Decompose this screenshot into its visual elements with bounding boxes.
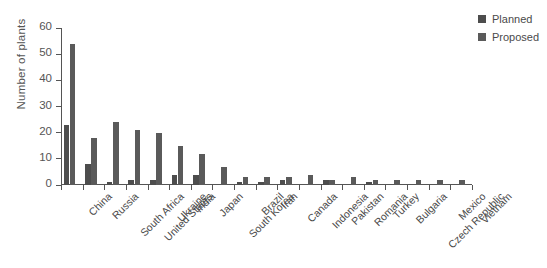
bar (172, 175, 178, 185)
bar-group (431, 28, 443, 185)
legend-label: Proposed (492, 31, 539, 43)
bar (64, 125, 70, 185)
bar-group (388, 28, 400, 185)
bar (323, 180, 329, 185)
bar (221, 167, 227, 185)
bar (107, 182, 113, 185)
bar-group (85, 28, 97, 185)
y-tick-label: 10 (39, 151, 52, 163)
bar (366, 182, 372, 185)
bar (237, 182, 243, 185)
bar (85, 164, 91, 185)
bar (329, 180, 335, 185)
bar (264, 177, 270, 185)
y-axis-title: Number of plants (15, 0, 27, 129)
bar (351, 177, 357, 185)
y-tick-label: 40 (39, 72, 52, 84)
chart-legend: PlannedProposed (478, 11, 539, 47)
bar-group (323, 28, 335, 185)
bar (128, 180, 134, 185)
bar (394, 180, 400, 185)
bar-group (280, 28, 292, 185)
y-tick-label: 20 (39, 125, 52, 137)
bar-group (128, 28, 140, 185)
y-tick-label: 30 (39, 99, 52, 111)
bar-group (193, 28, 205, 185)
bar-group (237, 28, 249, 185)
x-axis-label: Japan (216, 190, 245, 219)
y-tick-label: 60 (39, 20, 52, 32)
bar (437, 180, 443, 185)
bar-group (345, 28, 357, 185)
bar (156, 133, 162, 185)
x-axis-label: Russia (109, 190, 140, 221)
bar (135, 130, 141, 185)
bar-group (215, 28, 227, 185)
bar-group (64, 28, 76, 185)
bar-group (258, 28, 270, 185)
bar (258, 182, 264, 185)
legend-label: Planned (492, 13, 532, 25)
x-axis-labels: ChinaRussiaSouth AfricaUnited StatesUkra… (61, 190, 541, 268)
bar (308, 175, 314, 185)
bar-group (453, 28, 465, 185)
bar (243, 177, 249, 185)
bar (373, 180, 379, 185)
bar-group (301, 28, 313, 185)
bar (286, 177, 292, 185)
y-tick-label: 50 (39, 46, 52, 58)
bar-group (410, 28, 422, 185)
bar-group (366, 28, 378, 185)
bar (70, 44, 76, 185)
bar-group (107, 28, 119, 185)
legend-item: Planned (478, 11, 539, 27)
legend-swatch-icon (478, 33, 486, 41)
bar (178, 146, 184, 185)
legend-swatch-icon (478, 15, 486, 23)
bar (113, 122, 119, 185)
bar-group (172, 28, 184, 185)
bar (91, 138, 97, 185)
bar (280, 180, 286, 185)
bars-layer (61, 28, 472, 185)
bar (459, 180, 465, 185)
bar (416, 180, 422, 185)
bar-group (150, 28, 162, 185)
bar (193, 175, 199, 185)
plot-area: 0102030405060 (61, 28, 472, 185)
legend-item: Proposed (478, 29, 539, 45)
bar-chart: Number of plants 0102030405060 ChinaRuss… (0, 0, 547, 268)
bar (150, 180, 156, 185)
y-tick-label: 0 (46, 177, 52, 189)
bar (199, 154, 205, 185)
